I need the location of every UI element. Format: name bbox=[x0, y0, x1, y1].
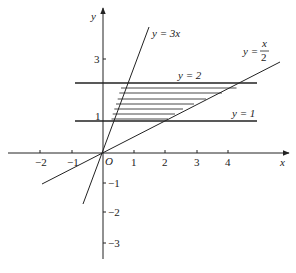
coordinate-diagram: x y O −2 −1 1 2 3 4 3 1 −1 −2 −3 y = 3x … bbox=[0, 0, 296, 273]
x-axis-label: x bbox=[279, 156, 285, 168]
y-tick-label: −2 bbox=[108, 206, 120, 218]
y-axis-label: y bbox=[90, 10, 96, 22]
origin-label: O bbox=[105, 155, 113, 167]
y-tick-label: −3 bbox=[108, 237, 120, 249]
label-y-equals-3x: y = 3x bbox=[151, 27, 180, 39]
x-tick-label: 2 bbox=[162, 156, 168, 168]
svg-text:2: 2 bbox=[261, 51, 267, 63]
y-tick-label: 1 bbox=[95, 110, 101, 122]
x-tick-label: −2 bbox=[35, 156, 47, 168]
label-y-equals-2: y = 2 bbox=[177, 69, 202, 81]
shaded-region bbox=[112, 88, 237, 119]
x-tick-label: 4 bbox=[225, 156, 231, 168]
x-tick-label: 1 bbox=[131, 156, 137, 168]
label-y-equals-x-over-2: y = x 2 bbox=[242, 37, 269, 63]
svg-text:x: x bbox=[261, 37, 267, 49]
x-tick-label: −1 bbox=[67, 156, 79, 168]
y-tick-label: 3 bbox=[94, 53, 100, 65]
x-tick-label: 3 bbox=[194, 156, 200, 168]
svg-text:y =: y = bbox=[242, 45, 258, 57]
y-tick-label: −1 bbox=[108, 177, 120, 189]
label-y-equals-1: y = 1 bbox=[231, 107, 255, 119]
